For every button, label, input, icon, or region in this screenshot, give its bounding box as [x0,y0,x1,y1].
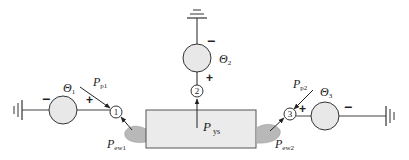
theta3-plus-sign: + [299,102,306,116]
ground-top-icon [187,10,207,18]
theta2-minus-sign: − [207,33,215,49]
system-box [146,110,256,148]
theta3-minus-sign: − [344,99,352,115]
label-pp2: Pp2 [292,77,308,92]
source-theta1 [49,96,77,124]
theta2-label: Θ2 [219,52,232,67]
theta1-label: Θ1 [63,81,76,96]
label-pew1: Pew1 [106,137,127,152]
diagram-canvas: − + Θ1 1 Pp1 Pew1 − + Θ2 2 Pys Pew2 3 [0,0,409,160]
source-theta3 [311,102,339,130]
label-pp1: Pp1 [92,75,108,90]
arrow-pp1 [80,87,110,108]
node-3-label: 3 [288,109,293,119]
node-2-label: 2 [195,86,200,96]
label-pew2: Pew2 [274,137,295,152]
ground-left-icon [14,100,22,120]
node-1-label: 1 [114,107,119,117]
arrow-pew1 [121,117,132,130]
theta3-label: Θ3 [320,85,333,100]
ground-right-icon [386,106,394,126]
theta2-plus-sign: + [206,71,213,85]
blob-ew1 [125,126,146,142]
theta1-minus-sign: − [42,91,50,107]
